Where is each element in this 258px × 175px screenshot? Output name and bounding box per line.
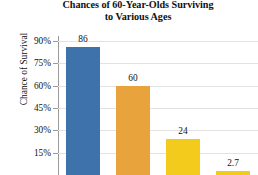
bar <box>166 139 200 175</box>
y-axis-tick-label: 30% <box>18 125 51 135</box>
y-axis-tick-label: 75% <box>18 58 51 68</box>
bar-data-label: 2.7 <box>208 158 258 169</box>
chart-title-line-2: to Various Ages <box>18 11 258 23</box>
bar-data-label: 24 <box>158 126 208 137</box>
y-axis-tick-labels: 90%75%60%45%30%15% <box>18 0 51 175</box>
y-axis-tick-label: 90% <box>18 36 51 46</box>
y-axis-tick-label: 15% <box>18 148 51 158</box>
plot-area: 8660242.7 <box>58 30 258 175</box>
y-axis-tick-label: 45% <box>18 103 51 113</box>
y-axis-tick <box>53 130 58 131</box>
y-axis-tick <box>53 108 58 109</box>
y-axis-tick <box>53 41 58 42</box>
y-axis-tick <box>53 63 58 64</box>
bar <box>116 86 150 175</box>
y-axis-tick-label: 60% <box>18 81 51 91</box>
chart-title: Chances of 60-Year-Olds Surviving to Var… <box>18 0 258 24</box>
bar-chart: Chances of 60-Year-Olds Surviving to Var… <box>0 0 258 175</box>
bar <box>216 171 250 175</box>
y-axis-tick <box>53 86 58 87</box>
bar-data-label: 60 <box>108 73 158 84</box>
bar-data-label: 86 <box>58 34 108 45</box>
y-axis-tick <box>53 153 58 154</box>
bar <box>66 47 100 175</box>
chart-title-line-1: Chances of 60-Year-Olds Surviving <box>18 0 258 11</box>
